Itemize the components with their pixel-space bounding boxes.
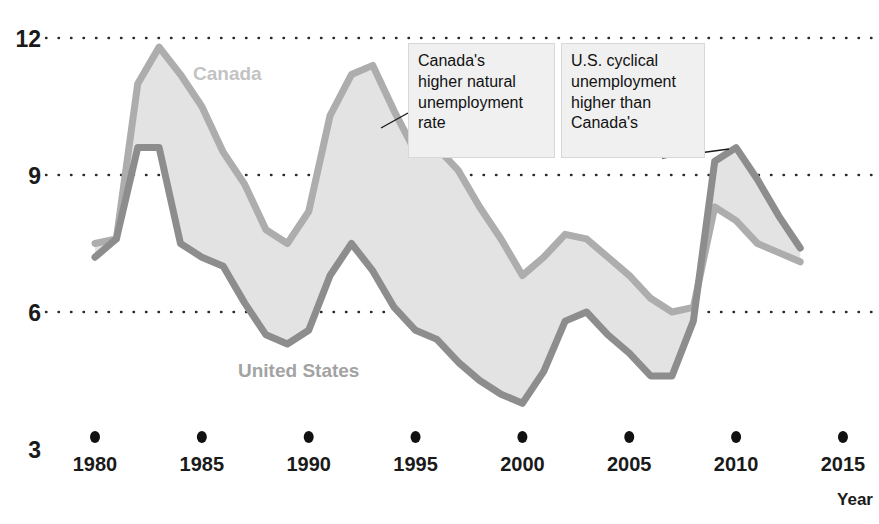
annotation-text: Canada's higher natural unemployment rat… — [418, 51, 545, 134]
y-axis-tick-label: 6 — [28, 300, 41, 326]
annotation-text: U.S. cyclical unemployment higher than C… — [571, 51, 695, 134]
x-axis-tick-dot — [304, 431, 314, 443]
x-axis-tick-dot — [731, 431, 741, 443]
chart-page: 19801985199019952000200520102015 12963 C… — [0, 0, 879, 524]
x-axis-tick-labels: 19801985199019952000200520102015 — [73, 453, 865, 475]
series-label-united-states: United States — [238, 360, 359, 381]
series-label-canada: Canada — [193, 63, 262, 84]
y-axis-tick-label: 3 — [28, 437, 41, 463]
x-axis-tick-label: 2000 — [500, 453, 545, 475]
annotation-canada-natural-rate: Canada's higher natural unemployment rat… — [408, 43, 555, 158]
x-axis-tick-label: 1995 — [393, 453, 438, 475]
x-axis-title: Year — [837, 490, 873, 509]
x-axis-tick-dot — [838, 431, 848, 443]
x-axis-tick-label: 2005 — [607, 453, 652, 475]
x-axis-tick-dot — [517, 431, 527, 443]
x-axis-tick-label: 1985 — [180, 453, 225, 475]
x-axis-tick-dot — [90, 431, 100, 443]
x-axis-tick-dot — [197, 431, 207, 443]
y-axis-tick-labels: 12963 — [15, 26, 41, 463]
x-axis-tick-dot — [624, 431, 634, 443]
y-axis-tick-label: 9 — [28, 163, 41, 189]
x-axis-ticks — [90, 431, 848, 443]
annotation-us-cyclical: U.S. cyclical unemployment higher than C… — [561, 43, 705, 158]
x-axis-tick-label: 2015 — [821, 453, 866, 475]
x-axis-tick-dot — [411, 431, 421, 443]
x-axis-tick-label: 1990 — [286, 453, 331, 475]
x-axis-tick-label: 1980 — [73, 453, 118, 475]
y-axis-tick-label: 12 — [15, 26, 41, 52]
x-axis-tick-label: 2010 — [714, 453, 759, 475]
